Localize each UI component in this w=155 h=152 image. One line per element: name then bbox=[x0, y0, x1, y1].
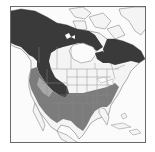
range-map bbox=[10, 6, 146, 143]
north-america-map bbox=[11, 7, 146, 143]
